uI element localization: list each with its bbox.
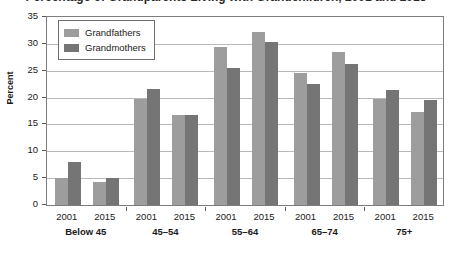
bar-grandfathers: [252, 32, 265, 205]
x-tick-mark: [205, 207, 206, 211]
x-year-label: 2015: [94, 211, 115, 222]
x-year-label: 2001: [56, 211, 77, 222]
bar-grandfathers: [332, 52, 345, 205]
y-tick-mark: [42, 123, 46, 124]
y-tick-label: 0: [0, 198, 38, 209]
bar-grandfathers: [294, 73, 307, 205]
legend-item-grandmothers: Grandmothers: [64, 40, 146, 55]
y-tick-label: 5: [0, 171, 38, 182]
x-year-label: 2015: [413, 211, 434, 222]
x-year-label: 2015: [174, 211, 195, 222]
bar-chart: Percentage of Grandparents Living with G…: [0, 0, 452, 263]
x-group-label: 75+: [396, 226, 412, 237]
y-tick-mark: [42, 97, 46, 98]
bar-grandmothers: [265, 42, 278, 205]
bar-grandfathers: [214, 47, 227, 206]
y-tick-label: 15: [0, 117, 38, 128]
y-tick-label: 10: [0, 144, 38, 155]
bar-grandmothers: [68, 162, 81, 205]
x-group-label: 45–54: [152, 226, 178, 237]
bar-grandfathers: [93, 182, 106, 205]
y-tick-mark: [42, 43, 46, 44]
x-tick-mark: [126, 207, 127, 211]
legend-label-grandfathers: Grandfathers: [85, 27, 140, 38]
x-year-label: 2015: [253, 211, 274, 222]
y-tick-label: 25: [0, 64, 38, 75]
y-tick-mark: [42, 16, 46, 17]
y-tick-mark: [42, 204, 46, 205]
chart-title: Percentage of Grandparents Living with G…: [0, 0, 452, 4]
legend-item-grandfathers: Grandfathers: [64, 25, 146, 40]
x-year-label: 2001: [375, 211, 396, 222]
bar-grandmothers: [227, 68, 240, 205]
bar-grandfathers: [55, 178, 68, 205]
x-year-label: 2015: [333, 211, 354, 222]
legend-label-grandmothers: Grandmothers: [85, 42, 146, 53]
bar-grandfathers: [373, 99, 386, 205]
y-tick-mark: [42, 150, 46, 151]
x-tick-mark: [285, 207, 286, 211]
y-axis-title: Percent: [5, 48, 15, 128]
bar-grandfathers: [172, 115, 185, 205]
y-tick-label: 30: [0, 37, 38, 48]
x-group-label: Below 45: [65, 226, 106, 237]
bar-grandmothers: [147, 89, 160, 205]
bar-grandmothers: [345, 64, 358, 205]
bar-grandmothers: [307, 84, 320, 205]
bar-grandmothers: [386, 90, 399, 206]
legend-swatch-icon-grandfathers: [64, 29, 79, 37]
bar-grandmothers: [185, 115, 198, 205]
x-tick-mark: [364, 207, 365, 211]
x-year-label: 2001: [295, 211, 316, 222]
legend-swatch-icon-grandmothers: [64, 44, 79, 52]
x-group-label: 55–64: [232, 226, 258, 237]
bar-grandmothers: [424, 100, 437, 205]
y-tick-mark: [42, 177, 46, 178]
x-axis: 20012015Below 452001201545–542001201555–…: [46, 207, 444, 263]
bar-grandfathers: [411, 112, 424, 205]
x-year-label: 2001: [215, 211, 236, 222]
chart-legend: Grandfathers Grandmothers: [58, 20, 155, 60]
y-tick-mark: [42, 70, 46, 71]
bar-grandfathers: [134, 99, 147, 205]
bar-grandmothers: [106, 178, 119, 205]
x-group-label: 65–74: [311, 226, 337, 237]
x-year-label: 2001: [136, 211, 157, 222]
y-tick-label: 20: [0, 91, 38, 102]
y-tick-label: 35: [0, 10, 38, 21]
chart-title-clipped: Percentage of Grandparents Living with G…: [0, 0, 452, 9]
